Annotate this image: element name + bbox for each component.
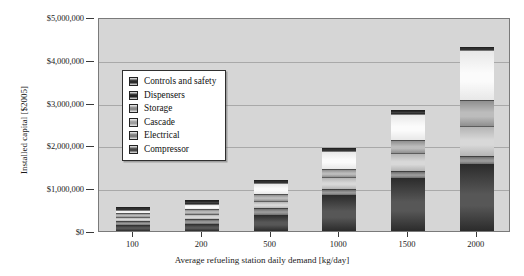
legend-label: Cascade — [144, 118, 175, 127]
legend-swatch-icon — [129, 91, 138, 100]
bar-segment-controls-and-safety — [322, 148, 356, 151]
legend-swatch-icon — [129, 131, 138, 140]
x-tick-label: 1500 — [399, 239, 416, 249]
legend-item-controls-and-safety[interactable]: Controls and safety — [129, 75, 216, 89]
bar-segment-storage — [391, 140, 425, 153]
x-tick-mark — [338, 232, 339, 237]
bar-segment-controls-and-safety — [460, 47, 494, 50]
x-tick-mark — [407, 232, 408, 237]
y-tick-label: $1,000,000 — [47, 184, 84, 194]
bar-segment-electrical — [460, 156, 494, 164]
bar-segment-dispensers — [116, 210, 150, 214]
legend-label: Compressor — [144, 145, 189, 154]
gridline — [99, 62, 509, 63]
legend-label: Dispensers — [144, 91, 185, 100]
legend-item-cascade[interactable]: Cascade — [129, 116, 216, 130]
bar-segment-dispensers — [185, 204, 219, 210]
y-tick-label: $3,000,000 — [47, 99, 84, 109]
bar-segment-cascade — [254, 201, 288, 208]
x-axis-title: Average refueling station daily demand [… — [0, 255, 524, 265]
bar-segment-electrical — [322, 189, 356, 196]
bar-segment-compressor — [116, 225, 150, 231]
y-tick-mark — [86, 18, 94, 19]
bar-segment-dispensers — [254, 183, 288, 193]
bar-segment-compressor — [391, 178, 425, 231]
bar-segment-electrical — [391, 171, 425, 178]
bar-segment-controls-and-safety — [254, 180, 288, 184]
legend-swatch-icon — [129, 118, 138, 127]
legend-label: Storage — [144, 104, 172, 113]
bar-segment-storage — [185, 209, 219, 214]
bar-2000 — [460, 17, 494, 231]
bar-segment-cascade — [322, 177, 356, 189]
x-tick-mark — [476, 232, 477, 237]
bar-segment-controls-and-safety — [391, 110, 425, 113]
bar-segment-cascade — [185, 214, 219, 218]
legend-item-dispensers[interactable]: Dispensers — [129, 89, 216, 103]
bar-1000 — [322, 17, 356, 231]
legend-swatch-icon — [129, 104, 138, 113]
x-tick-label: 500 — [263, 239, 276, 249]
bar-segment-controls-and-safety — [116, 207, 150, 209]
y-tick-label: $0 — [76, 227, 84, 237]
legend-swatch-icon — [129, 77, 138, 86]
y-axis: $0$1,000,000$2,000,000$3,000,000$4,000,0… — [0, 0, 98, 276]
legend: Controls and safetyDispensersStorageCasc… — [122, 70, 226, 161]
bar-500 — [254, 17, 288, 231]
bar-segment-electrical — [185, 219, 219, 224]
bar-segment-compressor — [185, 224, 219, 231]
y-tick-mark — [86, 61, 94, 62]
legend-item-electrical[interactable]: Electrical — [129, 129, 216, 143]
bar-segment-cascade — [460, 126, 494, 156]
y-tick-mark — [86, 104, 94, 105]
legend-label: Electrical — [144, 131, 180, 140]
x-tick-mark — [201, 232, 202, 237]
figure: $0$1,000,000$2,000,000$3,000,000$4,000,0… — [0, 0, 524, 276]
bar-segment-cascade — [391, 153, 425, 171]
x-tick-mark — [270, 232, 271, 237]
legend-item-storage[interactable]: Storage — [129, 102, 216, 116]
legend-swatch-icon — [129, 145, 138, 154]
legend-label: Controls and safety — [144, 77, 216, 86]
bar-segment-dispensers — [322, 151, 356, 170]
bar-segment-cascade — [116, 217, 150, 221]
bar-segment-electrical — [254, 208, 288, 214]
y-tick-mark — [86, 189, 94, 190]
y-tick-label: $2,000,000 — [47, 141, 84, 151]
bar-segment-controls-and-safety — [185, 200, 219, 203]
bar-segment-compressor — [254, 215, 288, 231]
x-tick-label: 200 — [195, 239, 208, 249]
bar-segment-storage — [116, 213, 150, 216]
y-axis-title: Installed capital [$2005] — [19, 40, 29, 220]
legend-item-compressor[interactable]: Compressor — [129, 143, 216, 157]
x-tick-mark — [132, 232, 133, 237]
x-tick-label: 1000 — [330, 239, 347, 249]
y-tick-mark — [86, 146, 94, 147]
bar-segment-storage — [460, 100, 494, 126]
bar-segment-storage — [322, 169, 356, 177]
y-tick-label: $4,000,000 — [47, 56, 84, 66]
bar-segment-compressor — [322, 195, 356, 231]
bar-segment-electrical — [116, 221, 150, 225]
bar-segment-storage — [254, 194, 288, 201]
x-tick-label: 2000 — [467, 239, 484, 249]
bar-segment-dispensers — [460, 50, 494, 100]
x-tick-label: 100 — [126, 239, 139, 249]
gridline — [99, 190, 509, 191]
y-tick-label: $5,000,000 — [47, 13, 84, 23]
y-tick-mark — [86, 232, 94, 233]
bar-1500 — [391, 17, 425, 231]
bar-segment-dispensers — [391, 114, 425, 140]
bar-segment-compressor — [460, 164, 494, 231]
